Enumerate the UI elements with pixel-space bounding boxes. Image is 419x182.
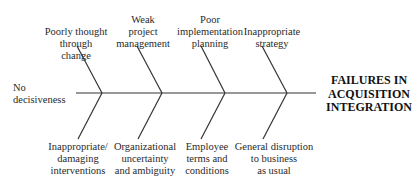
bone-top-2 xyxy=(137,46,162,93)
top-cause-4: Inappropriate strategy xyxy=(238,26,306,50)
bone-bottom-1 xyxy=(78,93,102,139)
fishbone-diagram: No decisiveness Poorly thought through c… xyxy=(0,0,419,182)
bone-top-4 xyxy=(262,46,287,93)
bone-bottom-2 xyxy=(138,93,162,139)
bone-bottom-3 xyxy=(201,93,225,139)
top-cause-1: Poorly thought through change xyxy=(44,26,108,62)
top-cause-2: Weak project management xyxy=(113,14,173,50)
bone-top-3 xyxy=(201,46,225,93)
bone-bottom-4 xyxy=(263,93,287,139)
bottom-cause-4: General disruption to business as usual xyxy=(224,141,324,177)
top-cause-3: Poor implementation planning xyxy=(172,14,248,50)
effect-label: FAILURES IN ACQUISITION INTEGRATION xyxy=(322,74,416,115)
bottom-cause-1: Inappropriate/ damaging interventions xyxy=(45,141,111,177)
spine-cause-label: No decisiveness xyxy=(13,82,66,106)
bottom-cause-2: Organizational uncertainty and ambiguity xyxy=(108,141,182,177)
